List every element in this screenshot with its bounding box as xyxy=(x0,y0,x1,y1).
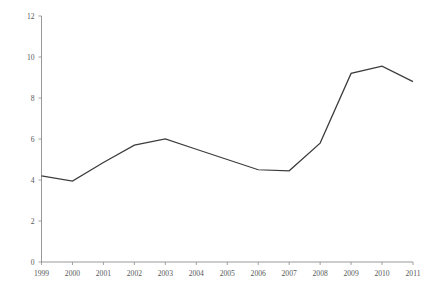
data-series-group xyxy=(42,66,414,181)
x-tick-label: 2007 xyxy=(282,269,297,278)
y-tick-label: 4 xyxy=(31,176,35,185)
chart-figure: Percentage 024681012 1999200020012002200… xyxy=(0,0,429,298)
x-tick-label: 2003 xyxy=(158,269,173,278)
x-tick-label: 2006 xyxy=(251,269,266,278)
x-axis: 1999200020012002200320042005200620072008… xyxy=(34,262,421,278)
y-axis: 024681012 xyxy=(27,12,42,267)
x-tick-label: 2002 xyxy=(127,269,142,278)
y-tick-label: 6 xyxy=(31,135,35,144)
y-tick-label: 2 xyxy=(31,217,35,226)
x-tick-label: 1999 xyxy=(34,269,49,278)
y-tick-label: 0 xyxy=(31,258,35,267)
x-tick-marks xyxy=(42,262,414,265)
x-tick-label: 2004 xyxy=(189,269,204,278)
series-line-percentage xyxy=(42,66,414,181)
y-tick-label: 8 xyxy=(31,94,35,103)
y-tick-label: 10 xyxy=(27,53,35,62)
x-tick-label: 2001 xyxy=(96,269,111,278)
y-tick-label: 12 xyxy=(27,12,35,21)
x-tick-label: 2009 xyxy=(343,269,358,278)
x-tick-label: 2008 xyxy=(313,269,328,278)
x-tick-labels: 1999200020012002200320042005200620072008… xyxy=(34,269,421,278)
y-tick-labels: 024681012 xyxy=(27,12,35,267)
x-tick-label: 2011 xyxy=(406,269,421,278)
x-tick-label: 2005 xyxy=(220,269,235,278)
x-tick-label: 2010 xyxy=(374,269,389,278)
x-tick-label: 2000 xyxy=(65,269,80,278)
line-chart-plot: 024681012 199920002001200220032004200520… xyxy=(0,0,429,298)
